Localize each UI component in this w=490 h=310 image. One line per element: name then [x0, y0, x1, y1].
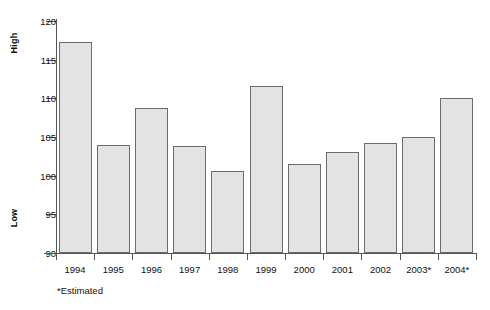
x-axis-line — [44, 253, 476, 254]
x-axis-tick-label: 1995 — [103, 264, 124, 275]
footnote: *Estimated — [57, 285, 103, 296]
y-axis-tick-label: 120 — [14, 16, 56, 27]
y-axis-tick-group: 115 — [0, 60, 56, 61]
bar — [288, 164, 321, 253]
bar — [135, 108, 168, 253]
x-axis-tick — [285, 253, 286, 260]
y-axis-tick-group: 105 — [0, 137, 56, 138]
bar — [173, 146, 206, 253]
x-axis-tick-label: 2004* — [444, 264, 469, 275]
bar — [97, 145, 130, 253]
bar — [326, 152, 359, 253]
bar-chart: High Low 9095100105110115120 19941995199… — [0, 0, 490, 310]
y-axis-tick-label: 110 — [14, 93, 56, 104]
x-axis-tick — [400, 253, 401, 260]
x-axis-tick — [132, 253, 133, 260]
y-axis-tick-label: 95 — [14, 209, 56, 220]
x-axis-tick — [56, 253, 57, 260]
x-axis-tick-label: 2002 — [370, 264, 391, 275]
bar — [211, 171, 244, 253]
bar — [250, 86, 283, 253]
x-axis-tick-label: 1997 — [179, 264, 200, 275]
y-axis-tick-group: 120 — [0, 21, 56, 22]
bar — [440, 98, 473, 253]
x-axis-tick-label: 2001 — [332, 264, 353, 275]
x-axis-tick-label: 1994 — [65, 264, 86, 275]
x-axis-tick — [323, 253, 324, 260]
y-axis-tick-group: 110 — [0, 98, 56, 99]
bar — [364, 143, 397, 253]
x-axis-tick — [438, 253, 439, 260]
x-axis-tick-label: 2000 — [294, 264, 315, 275]
x-axis-tick-label: 1999 — [255, 264, 276, 275]
y-axis-tick-label: 100 — [14, 170, 56, 181]
x-axis-tick — [361, 253, 362, 260]
x-axis-tick — [171, 253, 172, 260]
x-axis-tick-label: 1998 — [217, 264, 238, 275]
x-axis-tick — [247, 253, 248, 260]
x-axis-tick — [94, 253, 95, 260]
y-axis-tick-label: 115 — [14, 54, 56, 65]
x-axis-tick — [209, 253, 210, 260]
bar — [402, 137, 435, 253]
y-axis-tick-group: 95 — [0, 214, 56, 215]
x-axis-tick-label: 2003* — [406, 264, 431, 275]
x-axis-tick — [476, 253, 477, 260]
y-axis-line — [56, 19, 57, 255]
x-axis-tick-label: 1996 — [141, 264, 162, 275]
y-axis-tick-group: 100 — [0, 176, 56, 177]
y-axis-tick-label: 105 — [14, 132, 56, 143]
bar — [59, 42, 92, 253]
